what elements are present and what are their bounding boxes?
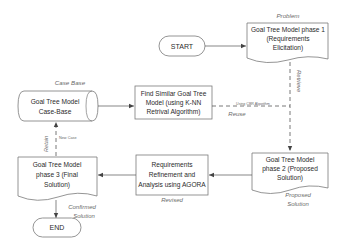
phase1-line1: Goal Tree Model phase 1 — [251, 26, 325, 34]
new-case-label: New Case — [59, 136, 77, 140]
phase1-line3: Elicitation) — [273, 44, 303, 52]
using-cbr-label: Using CBR Algorithm — [236, 102, 270, 106]
problem-caption: Problem — [276, 12, 299, 19]
confirmed-caption-line1: Confirmed — [68, 204, 96, 210]
case-base-line2: Case-Base — [39, 108, 72, 115]
proposed-caption-line2: Solution — [287, 201, 309, 207]
phase2-line3: Solution) — [277, 174, 303, 182]
refinement-line1: Requirements — [151, 161, 193, 169]
flowchart: START Problem Goal Tree Model phase 1 (R… — [0, 0, 352, 238]
revised-caption: Revised — [161, 197, 183, 203]
retrieve-label: Retrieve — [296, 70, 302, 93]
end-label: END — [50, 224, 65, 231]
phase3-line3: Solution) — [44, 181, 70, 189]
find-similar-line2: Model (using K-NN — [146, 99, 202, 107]
start-label: START — [171, 43, 194, 50]
refinement-line3: Analysis using AGORA — [138, 181, 206, 189]
phase1-document[interactable]: Goal Tree Model phase 1 (Requirements El… — [247, 23, 328, 63]
retain-label: Retain — [43, 136, 49, 152]
start-terminator[interactable]: START — [159, 36, 205, 56]
confirmed-caption-line2: Solution — [73, 213, 95, 219]
phase2-line2: phase 2 (Proposed — [262, 165, 318, 173]
phase2-document[interactable]: Goal Tree Model phase 2 (Proposed Soluti… — [252, 153, 328, 194]
find-similar-process[interactable]: Find Similar Goal Tree Model (using K-NN… — [135, 86, 212, 119]
refinement-process[interactable]: Requirements Refinement and Analysis usi… — [136, 155, 208, 195]
find-similar-line3: Retrival Algorithm) — [147, 108, 201, 116]
case-base-line1: Goal Tree Model — [31, 98, 80, 105]
reuse-label: Reuse — [228, 111, 246, 117]
refinement-line2: Refinement and — [149, 171, 196, 178]
phase2-line1: Goal Tree Model — [266, 156, 315, 163]
proposed-caption-line1: Proposed — [285, 192, 311, 198]
phase3-line2: phase 3 (Final — [36, 171, 78, 179]
case-base-caption: Case Base — [55, 79, 86, 86]
phase3-line1: Goal Tree Model — [33, 161, 82, 168]
find-similar-line1: Find Similar Goal Tree — [141, 90, 207, 97]
end-terminator[interactable]: END — [33, 218, 81, 237]
phase3-document[interactable]: Goal Tree Model phase 3 (Final Solution) — [18, 157, 97, 200]
case-base-cylinder[interactable]: Goal Tree Model Case-Base — [18, 91, 98, 121]
phase1-line2: (Requirements — [266, 35, 310, 43]
